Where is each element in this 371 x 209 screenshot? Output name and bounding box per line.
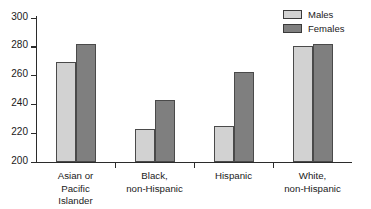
bar-males-3 — [293, 46, 313, 162]
x-axis-label-line: Black, — [126, 170, 183, 183]
y-tick-label: 220 — [11, 126, 28, 138]
bar-males-0 — [56, 62, 76, 162]
y-axis-line — [36, 16, 37, 163]
bar-females-2 — [234, 72, 254, 162]
x-axis-label-line: Pacific — [58, 183, 94, 196]
x-axis-label-line: Hispanic — [215, 170, 252, 183]
x-axis-label-line: non-Hispanic — [284, 183, 341, 196]
x-axis-label-1: Black,non-Hispanic — [126, 170, 183, 195]
y-tick: 260 — [31, 75, 37, 76]
x-axis-label-0: Asian orPacificIslander — [58, 170, 94, 208]
x-axis-label-3: White,non-Hispanic — [284, 170, 341, 195]
bar-females-1 — [155, 100, 175, 162]
x-tick — [194, 163, 195, 168]
y-tick-label: 260 — [11, 68, 28, 80]
y-tick: 280 — [31, 46, 37, 47]
plot-area: 300280260240220200 — [36, 16, 352, 163]
y-tick-label: 300 — [11, 11, 28, 23]
x-axis-label-line: non-Hispanic — [126, 183, 183, 196]
bar-males-2 — [214, 126, 234, 162]
bar-males-1 — [135, 129, 155, 162]
x-axis-label-line: White, — [284, 170, 341, 183]
y-tick-label: 240 — [11, 97, 28, 109]
bar-chart: MalesFemales 300280260240220200 Asian or… — [0, 0, 371, 209]
x-tick — [273, 163, 274, 168]
x-axis-label-line: Asian or — [58, 170, 94, 183]
y-tick: 220 — [31, 133, 37, 134]
x-tick — [115, 163, 116, 168]
bar-females-0 — [76, 44, 96, 162]
y-tick-label: 280 — [11, 39, 28, 51]
x-axis-label-2: Hispanic — [215, 170, 252, 183]
y-tick: 300 — [31, 18, 37, 19]
y-tick: 200 — [31, 162, 37, 163]
y-tick-label: 200 — [11, 155, 28, 167]
bar-females-3 — [313, 44, 333, 162]
y-tick: 240 — [31, 104, 37, 105]
x-axis-label-line: Islander — [58, 195, 94, 208]
